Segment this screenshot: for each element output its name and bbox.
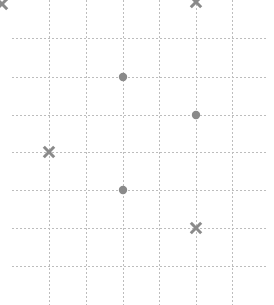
data-point-circle: [119, 186, 127, 194]
data-point-circle: [119, 73, 127, 81]
data-point-cross: [0, 0, 7, 9]
data-points-cross: [0, 0, 201, 233]
scatter-plot-canvas: [0, 0, 274, 305]
plot-svg: [0, 0, 274, 305]
data-point-circle: [192, 111, 200, 119]
data-point-cross: [191, 0, 201, 7]
